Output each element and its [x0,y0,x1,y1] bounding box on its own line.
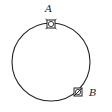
point-a-label: A [45,4,52,14]
point-a-marker [46,19,57,29]
point-b-label: B [89,88,96,98]
point-b-marker [74,88,82,96]
